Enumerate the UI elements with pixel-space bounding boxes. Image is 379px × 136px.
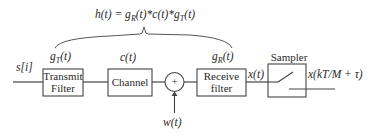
receive-filter-label: Receivefilter — [197, 70, 246, 94]
channel-response-label: c(t) — [120, 52, 136, 64]
intermediate-signal-label: x(t) — [248, 69, 264, 81]
noise-arrowhead — [172, 92, 178, 97]
output-label: x(kT/M + τ) — [308, 69, 363, 81]
equation-label: h(t) = gR(t)*c(t)*gT(t) — [95, 9, 195, 23]
receive-response-label: gR(t) — [212, 51, 234, 65]
input-label: s[i] — [16, 62, 33, 74]
brace-shape — [55, 27, 232, 48]
transmit-response-label: gT(t) — [50, 51, 71, 65]
adder-plus-symbol: + — [169, 75, 180, 87]
sampler-label: Sampler — [264, 51, 314, 63]
transmit-filter-label: TransmitFilter — [43, 70, 83, 94]
noise-label: w(t) — [163, 117, 182, 129]
sampler-box — [268, 64, 306, 97]
switch-icon — [278, 72, 293, 82]
channel-label: Channel — [108, 76, 152, 88]
